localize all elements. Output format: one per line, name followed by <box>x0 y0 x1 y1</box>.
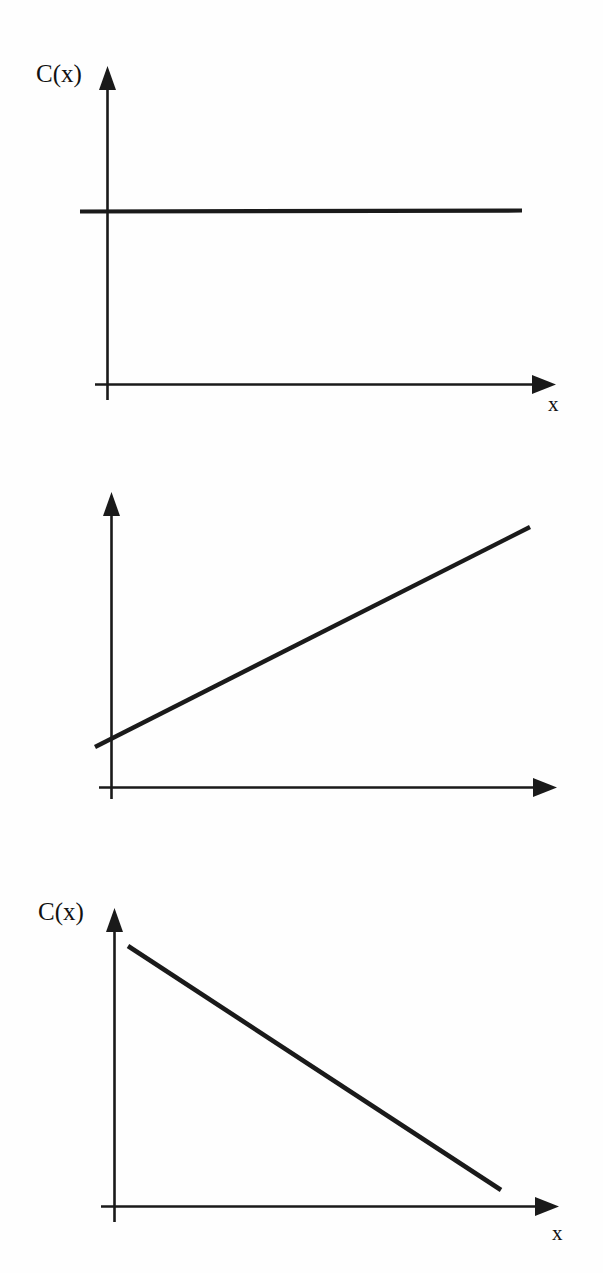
chart-panel-increasing: C(x) x <box>0 424 603 854</box>
data-line-decreasing <box>128 946 501 1190</box>
data-line-constant <box>80 211 522 212</box>
constant-plot-svg <box>0 0 603 424</box>
y-axis-arrowhead-icon <box>103 492 120 516</box>
increasing-plot-svg <box>0 424 603 854</box>
chart-panel-constant: C(x) x <box>0 0 603 424</box>
x-axis-label: x <box>548 392 559 417</box>
decreasing-plot-svg <box>0 854 603 1273</box>
y-axis-arrowhead-icon <box>106 908 123 932</box>
data-line-increasing <box>95 527 530 747</box>
x-axis-arrowhead-icon <box>535 1197 559 1216</box>
y-axis-arrowhead-icon <box>99 66 116 90</box>
figure-page: C(x) x C(x) x C(x) x <box>0 0 603 1273</box>
y-axis-label: C(x) <box>36 60 82 88</box>
chart-panel-decreasing: C(x) x <box>0 854 603 1273</box>
x-axis-arrowhead-icon <box>533 778 557 797</box>
